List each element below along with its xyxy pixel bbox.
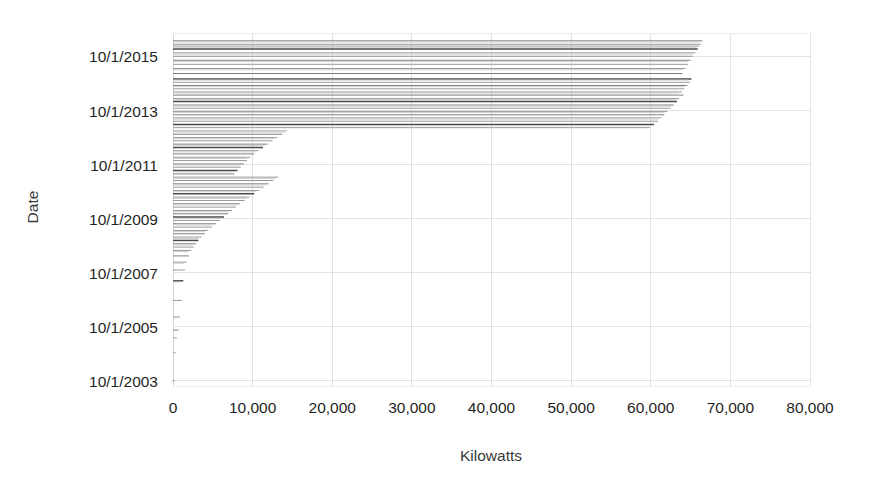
y-tick-label: 10/1/2009 [89, 211, 158, 228]
x-tick-label: 60,000 [627, 399, 675, 416]
x-axis-tick-labels: 010,00020,00030,00040,00050,00060,00070,… [169, 399, 834, 416]
y-tick-label: 10/1/2007 [89, 265, 158, 282]
y-axis-title: Date [24, 191, 41, 224]
y-tick-label: 10/1/2013 [89, 103, 158, 120]
x-tick-label: 40,000 [468, 399, 516, 416]
x-tick-label: 20,000 [309, 399, 357, 416]
y-axis-tick-labels: 10/1/201510/1/201310/1/201110/1/200910/1… [89, 48, 158, 389]
data-bars [172, 41, 703, 382]
y-tick-label: 10/1/2003 [89, 373, 158, 390]
kilowatts-by-date-chart: 010,00020,00030,00040,00050,00060,00070,… [0, 0, 874, 488]
y-tick-label: 10/1/2015 [89, 48, 158, 65]
chart-container: 010,00020,00030,00040,00050,00060,00070,… [0, 0, 874, 488]
x-tick-label: 70,000 [707, 399, 755, 416]
y-tick-label: 10/1/2005 [89, 319, 158, 336]
x-tick-label: 0 [169, 399, 178, 416]
x-axis-title: Kilowatts [460, 447, 522, 464]
x-tick-label: 50,000 [547, 399, 595, 416]
x-tick-label: 10,000 [229, 399, 277, 416]
y-tick-label: 10/1/2011 [90, 157, 158, 174]
x-tick-label: 80,000 [786, 399, 834, 416]
x-tick-label: 30,000 [388, 399, 436, 416]
